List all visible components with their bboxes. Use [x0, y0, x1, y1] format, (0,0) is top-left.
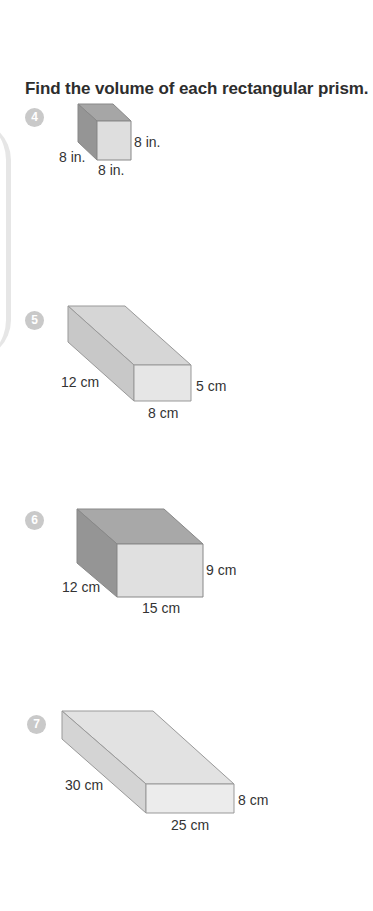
prism-7-figure — [0, 0, 373, 911]
width-label: 25 cm — [171, 817, 209, 833]
depth-label: 30 cm — [65, 777, 103, 793]
height-label: 8 cm — [238, 792, 268, 808]
